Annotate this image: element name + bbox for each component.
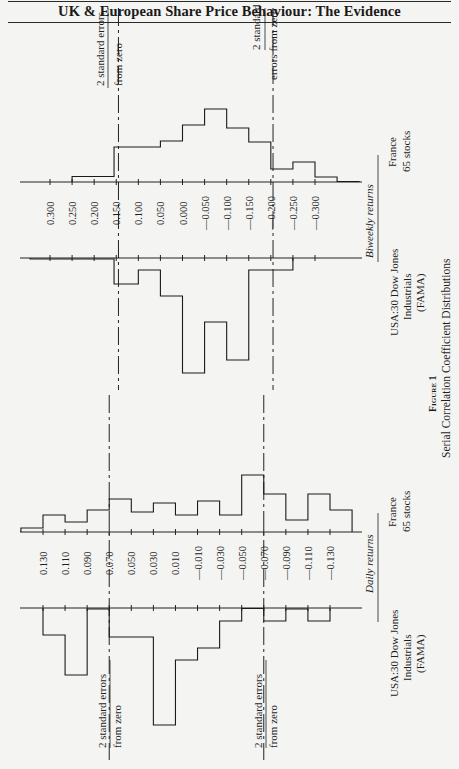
tick-label: 0.150 <box>111 201 122 225</box>
biweekly-usa-label-1: USA:30 Dow Jones <box>388 249 400 336</box>
tick-label: 0.010 <box>170 551 181 575</box>
tick-label: 0.030 <box>148 551 159 575</box>
tick-label: 0.100 <box>133 201 144 225</box>
tick-label: 0.300 <box>45 201 56 225</box>
biweekly-usa-label-2: Industrials <box>401 274 413 320</box>
biweekly-se-left-label-2: from zero <box>112 42 124 86</box>
tick-label: 0.000 <box>178 201 189 225</box>
figure-1-charts: 0.3000.2500.2000.1500.1000.0500.000—0.05… <box>0 0 459 769</box>
daily-se-left-label-2: from zero <box>111 704 123 748</box>
tick-label: —0.130 <box>325 546 336 581</box>
tick-label: —0.300 <box>310 196 321 231</box>
rotated-labels: 2 standard errors from zero 2 standard e… <box>94 4 452 748</box>
tick-label: —0.200 <box>266 196 277 231</box>
daily-se-right-label-1: 2 standard errors <box>252 674 264 748</box>
usa-histogram <box>30 258 293 373</box>
tick-label: 0.130 <box>38 551 49 575</box>
tick-label: 0.050 <box>155 201 166 225</box>
france-histogram <box>72 109 359 182</box>
france-histogram <box>21 475 352 532</box>
tick-label: 0.200 <box>89 201 100 225</box>
tick-label: —0.050 <box>200 196 211 231</box>
tick-label: —0.090 <box>281 546 292 581</box>
tick-label: —0.250 <box>288 196 299 231</box>
daily-title: Daily returns <box>363 534 375 594</box>
tick-label: 0.090 <box>82 551 93 575</box>
daily-france-label-1: France <box>386 497 398 527</box>
biweekly-returns-panel: 0.3000.2500.2000.1500.1000.0500.000—0.05… <box>20 8 362 390</box>
tick-label: —0.030 <box>215 546 226 581</box>
biweekly-usa-label-3: (FAMA) <box>414 273 427 312</box>
biweekly-france-label-2: 65 stocks <box>400 131 412 172</box>
tick-label: —0.150 <box>244 196 255 231</box>
daily-returns-panel: 0.1300.1100.0900.0700.0500.0300.010—0.01… <box>20 395 362 760</box>
tick-label: 0.250 <box>67 201 78 225</box>
usa-histogram <box>43 608 330 725</box>
tick-label: 0.050 <box>126 551 137 575</box>
daily-usa-label-1: USA:30 Dow Jones <box>388 610 400 697</box>
tick-label: —0.050 <box>237 546 248 581</box>
daily-se-left-label-1: 2 standard errors <box>96 674 108 748</box>
biweekly-france-label-1: France <box>386 137 398 167</box>
biweekly-title: Biweekly returns <box>363 184 375 258</box>
figure-label: Figure 1 <box>427 375 438 412</box>
daily-france-label-2: 65 stocks <box>400 491 412 532</box>
daily-se-right-label-2: from zero <box>267 704 279 748</box>
tick-label: —0.100 <box>222 196 233 231</box>
biweekly-se-left-label-1: 2 standard errors <box>94 12 106 86</box>
tick-label: —0.010 <box>193 546 204 581</box>
tick-label: 0.110 <box>60 552 71 575</box>
biweekly-se-right-label-1: 2 standard <box>250 4 262 50</box>
figure-caption: Serial Correlation Coefficient Distribut… <box>440 258 452 458</box>
tick-label: —0.110 <box>303 546 314 581</box>
daily-usa-label-3: (FAMA) <box>414 634 427 673</box>
daily-usa-label-2: Industrials <box>401 635 413 681</box>
biweekly-se-right-label-2: errors from zero <box>267 8 279 80</box>
